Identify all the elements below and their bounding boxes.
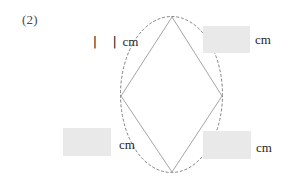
unit-label-top-right: cm xyxy=(255,33,271,46)
worksheet-page: (2) | |cm cm cm cm xyxy=(0,0,293,182)
problem-number: (2) xyxy=(22,12,38,28)
answer-box-top-right[interactable] xyxy=(203,26,250,53)
known-measure-unit: cm xyxy=(122,34,138,49)
answer-box-bottom-right[interactable] xyxy=(203,131,251,159)
unit-label-bottom-left: cm xyxy=(119,138,135,151)
answer-box-bottom-left[interactable] xyxy=(63,128,111,156)
known-measure-value: | | xyxy=(91,34,120,49)
unit-label-bottom-right: cm xyxy=(256,141,272,154)
known-side-measure: | |cm xyxy=(91,35,138,48)
